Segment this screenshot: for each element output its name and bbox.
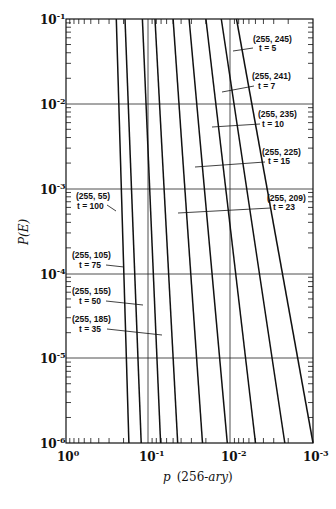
svg-text:t = 100: t = 100 [77, 201, 104, 211]
svg-text:10-4: 10-4 [40, 266, 66, 282]
x-minor-ticks [70, 19, 288, 443]
svg-text:t = 75: t = 75 [79, 260, 101, 270]
svg-text:100: 100 [57, 448, 80, 464]
svg-text:10-2: 10-2 [40, 96, 66, 112]
svg-text:10-1: 10-1 [139, 448, 165, 464]
svg-text:10-2: 10-2 [221, 448, 247, 464]
error-probability-chart: (255, 245) t = 5 (255, 241) t = 7 (255, … [0, 0, 336, 509]
svg-text:(255, 55): (255, 55) [76, 191, 110, 201]
svg-text:(255, 235): (255, 235) [258, 109, 297, 119]
svg-text:10-3: 10-3 [303, 448, 329, 464]
annotation-t100: (255, 55) t = 100 [76, 191, 110, 211]
svg-text:(255, 155): (255, 155) [72, 286, 111, 296]
annotation-t10: (255, 235) t = 10 [258, 109, 297, 129]
annotation-t35: (255, 185) t = 35 [72, 314, 111, 334]
y-tick-labels: 10-1 10-2 10-3 10-4 10-5 10-6 [40, 11, 66, 451]
annotation-t23: (255, 209) t = 23 [267, 193, 306, 212]
svg-text:(255, 105): (255, 105) [72, 250, 111, 260]
series-line [189, 19, 227, 443]
svg-text:10-1: 10-1 [40, 11, 66, 27]
annotation-t75: (255, 105) t = 75 [72, 250, 111, 270]
svg-text:t = 7: t = 7 [258, 81, 276, 91]
svg-text:(255, 185): (255, 185) [72, 314, 111, 324]
annotation-t50: (255, 155) t = 50 [72, 286, 111, 306]
svg-text:t = 50: t = 50 [79, 296, 101, 306]
svg-text:t = 5: t = 5 [259, 43, 277, 53]
svg-text:t = 23: t = 23 [273, 202, 295, 212]
x-tick-labels: 100 10-1 10-2 10-3 [57, 448, 329, 464]
svg-text:(255, 241): (255, 241) [252, 71, 291, 81]
series-lines [116, 19, 313, 443]
x-axis-title: p(256-ary) [163, 470, 233, 484]
svg-text:t = 10: t = 10 [262, 119, 284, 129]
annotation-labels: (255, 245) t = 5 (255, 241) t = 7 (255, … [72, 34, 306, 334]
svg-text:t = 15: t = 15 [268, 156, 290, 166]
annotation-t15: (255, 225) t = 15 [262, 147, 301, 166]
svg-text:10-6: 10-6 [40, 435, 66, 451]
annotation-t7: (255, 241) t = 7 [252, 71, 291, 91]
annotation-t5: (255, 245) t = 5 [253, 34, 292, 53]
series-line [173, 19, 202, 443]
vertical-reference-lines [148, 19, 230, 443]
svg-text:t = 35: t = 35 [79, 324, 101, 334]
svg-text:10-3: 10-3 [40, 181, 66, 197]
y-axis-title: P(E) [17, 218, 31, 246]
annotation-leaders [106, 48, 271, 335]
svg-text:10-5: 10-5 [40, 350, 66, 366]
